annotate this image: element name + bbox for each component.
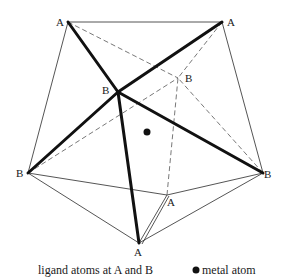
edge-A3-B3 [118, 92, 139, 243]
edge-B1-A4 [28, 173, 167, 195]
edge-A3-A4-a [139, 195, 167, 243]
vertex-labels: A A B B A A B B [16, 16, 271, 258]
edge-A1-B3 [68, 22, 118, 92]
legend-ligand-text: ligand atoms at A and B [38, 263, 153, 277]
label-A4: A [167, 196, 175, 208]
edge-A1-B4 [68, 22, 178, 78]
coordination-polyhedron-diagram: A A B B A A B B ligand atoms at A and B … [0, 0, 286, 280]
label-A1: A [56, 16, 64, 28]
label-B1: B [16, 167, 23, 179]
metal-atom-dot [144, 129, 151, 136]
edge-A2-B3 [118, 22, 222, 92]
legend-metal-dot-icon [193, 267, 200, 274]
edge-B2-B3 [118, 92, 263, 173]
edge-B1-B3 [28, 92, 118, 173]
edge-B2-A3 [139, 173, 263, 243]
legend-metal-text: metal atom [202, 263, 256, 277]
label-B4: B [185, 72, 192, 84]
edge-A1-B1 [28, 22, 68, 173]
edge-A2-B2 [222, 22, 263, 173]
edge-B2-A4 [167, 173, 263, 195]
label-B3: B [102, 84, 109, 96]
legend: ligand atoms at A and B metal atom [38, 263, 256, 277]
label-A3: A [134, 246, 142, 258]
edge-A4-B4 [167, 78, 178, 195]
edge-A3-A4-b [142, 196, 169, 244]
edge-B1-A3 [28, 173, 139, 243]
edge-A2-B4 [178, 22, 222, 78]
label-B2: B [264, 168, 271, 180]
label-A2: A [227, 16, 235, 28]
